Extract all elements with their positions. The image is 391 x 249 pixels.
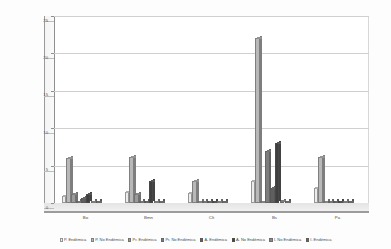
chart-container: Número de Especies 0510152025 BoBmnCltBs… [0,0,391,249]
bar-top-face [73,193,77,195]
legend-label: Pr. No Endémica [165,238,195,243]
bar[interactable] [328,202,332,203]
legend-label: P. No Endémica [95,238,123,243]
y-axis: Número de Especies [22,16,44,213]
bar[interactable] [285,202,289,203]
legend-swatch-icon [232,238,235,241]
legend-item[interactable]: I. No Endémica [269,238,301,243]
y-tick-mark [51,166,54,167]
legend-item[interactable]: P. No Endémica [91,238,124,243]
bar[interactable] [129,157,133,203]
bar[interactable] [159,202,163,203]
legend-swatch-icon [306,238,309,241]
bar[interactable] [260,202,264,203]
bar[interactable] [343,202,347,203]
bar[interactable] [323,202,327,203]
bar[interactable] [86,194,90,203]
bar[interactable] [265,151,269,203]
bar-top-face [349,201,353,203]
x-tick-labels: BoBmnCltBsPa [44,215,369,225]
bar[interactable] [149,181,153,203]
bar[interactable] [134,194,138,203]
bar[interactable] [71,194,75,203]
bar-group [54,16,117,203]
bar-front-face [66,158,70,203]
bar[interactable] [255,38,259,203]
legend-swatch-icon [200,238,203,241]
bar-front-face [149,181,153,203]
x-tick-label: Clt [180,215,243,220]
bar-front-face [71,194,75,203]
plot-area [44,16,369,213]
bar[interactable] [318,157,322,203]
bar[interactable] [251,181,255,203]
y-tick-mark [51,128,54,129]
bar[interactable] [91,202,95,203]
bar-top-face [257,37,261,39]
legend-item[interactable]: A. Endémica [200,238,227,243]
bar[interactable] [333,202,337,203]
legend-label: I. No Endémica [274,238,301,243]
bar[interactable] [275,143,279,203]
bar-front-face [275,143,279,203]
legend-label: A. No Endémica [236,238,265,243]
bar[interactable] [81,198,85,203]
legend-swatch-icon [60,238,63,241]
bar[interactable] [202,202,206,203]
bar-side-face [197,179,199,201]
bar[interactable] [139,202,143,203]
y-tick-mark [51,203,54,204]
bar-side-face [153,179,155,201]
legend-label: P. Endémica [64,238,86,243]
x-tick-label: Bo [54,215,117,220]
bar-front-face [188,193,192,203]
y-tick-label: 10 [32,131,48,135]
legend-swatch-icon [128,238,131,241]
bar-front-face [314,188,318,203]
bar-top-face [286,201,290,203]
bar[interactable] [125,192,129,203]
bar[interactable] [62,196,66,203]
bar[interactable] [66,158,70,203]
bar-top-face [160,201,164,203]
bar[interactable] [270,188,274,203]
bar[interactable] [212,202,216,203]
bar-front-face [86,194,90,203]
bar-side-face [260,36,262,201]
bar-top-face [131,156,135,158]
y-tick-label: 15 [32,93,48,97]
bar-top-face [151,180,155,182]
bar-front-face [270,188,274,203]
bar[interactable] [197,202,201,203]
bar[interactable] [154,202,158,203]
bar-front-face [255,38,259,203]
x-tick-label: Bmn [117,215,180,220]
bar-front-face [251,181,255,203]
bar[interactable] [192,181,196,203]
legend-item[interactable]: Pr. Endémica [128,238,156,243]
bar[interactable] [188,193,192,203]
legend-item[interactable]: P. Endémica [60,238,87,243]
bar[interactable] [217,202,221,203]
bar[interactable] [96,202,100,203]
bar[interactable] [348,202,352,203]
bar-front-face [318,157,322,203]
bar[interactable] [338,202,342,203]
bar-top-face [136,193,140,195]
bar[interactable] [222,202,226,203]
legend-item[interactable]: Pr. No Endémica [161,238,196,243]
chart-legend: P. EndémicaP. No EndémicaPr. EndémicaPr.… [0,234,391,246]
bar-group [180,16,243,203]
legend-label: A. Endémica [204,238,227,243]
bar[interactable] [280,201,284,203]
bar-top-face [267,150,271,152]
legend-item[interactable]: I. Endémica [306,238,332,243]
bar[interactable] [314,188,318,203]
bar-top-face [320,156,324,158]
bar-front-face [125,192,129,203]
x-tick-label: Pa [306,215,369,220]
legend-item[interactable]: A. No Endémica [232,238,265,243]
bar[interactable] [207,202,211,203]
bar[interactable] [76,202,80,203]
bar[interactable] [144,202,148,203]
